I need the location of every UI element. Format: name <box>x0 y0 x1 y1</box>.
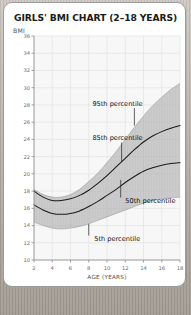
svg-text:6: 6 <box>69 265 72 271</box>
svg-text:18: 18 <box>23 188 30 194</box>
svg-text:16: 16 <box>158 265 165 271</box>
svg-text:14: 14 <box>140 265 147 271</box>
svg-text:14: 14 <box>23 222 30 228</box>
chart-plot-area: 1012141618202224262830323436246810121416… <box>4 3 186 287</box>
svg-text:24: 24 <box>23 136 30 142</box>
svg-text:10: 10 <box>23 257 30 263</box>
svg-text:28: 28 <box>23 102 30 108</box>
svg-text:12: 12 <box>23 240 30 246</box>
svg-text:18: 18 <box>177 265 184 271</box>
svg-text:20: 20 <box>23 171 30 177</box>
svg-text:16: 16 <box>23 205 30 211</box>
svg-text:AGE (YEARS): AGE (YEARS) <box>87 274 126 280</box>
svg-text:4: 4 <box>51 265 55 271</box>
svg-text:10: 10 <box>104 265 111 271</box>
bmi-growth-chart-svg: 1012141618202224262830323436246810121416… <box>4 3 186 287</box>
svg-text:12: 12 <box>122 265 129 271</box>
svg-text:32: 32 <box>23 67 30 73</box>
svg-text:26: 26 <box>23 119 30 125</box>
svg-text:5th percentile: 5th percentile <box>94 235 140 243</box>
svg-text:8: 8 <box>87 265 90 271</box>
svg-text:50th percentile: 50th percentile <box>125 197 175 205</box>
bmi-chart-card: GIRLS' BMI CHART (2–18 YEARS) BMI 101214… <box>3 2 186 287</box>
svg-text:22: 22 <box>23 154 30 160</box>
svg-text:30: 30 <box>23 85 30 91</box>
svg-text:34: 34 <box>23 50 30 56</box>
svg-text:2: 2 <box>32 265 35 271</box>
svg-text:85th percentile: 85th percentile <box>92 134 142 142</box>
svg-text:95th percentile: 95th percentile <box>92 100 142 108</box>
svg-text:36: 36 <box>23 33 30 39</box>
